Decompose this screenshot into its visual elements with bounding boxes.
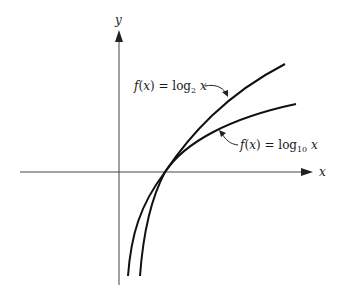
log10-label: f(x) = log10 x: [239, 138, 318, 154]
log10-leader-arrowhead-icon: [219, 130, 226, 137]
log10-leader-arrow: [222, 134, 238, 145]
log10-curve: [140, 104, 296, 276]
y-axis-arrow-icon: [115, 30, 123, 42]
y-axis-label: y: [114, 13, 122, 27]
log2-label: f(x) = log2 x: [133, 79, 207, 95]
log2-leader-arrowhead-icon: [222, 90, 228, 97]
log-graph: x y f(x) = log2 x f(x) = log10 x: [0, 0, 341, 297]
x-axis-label: x: [319, 165, 326, 179]
log2-curve: [128, 64, 285, 276]
x-axis-arrow-icon: [301, 168, 313, 176]
